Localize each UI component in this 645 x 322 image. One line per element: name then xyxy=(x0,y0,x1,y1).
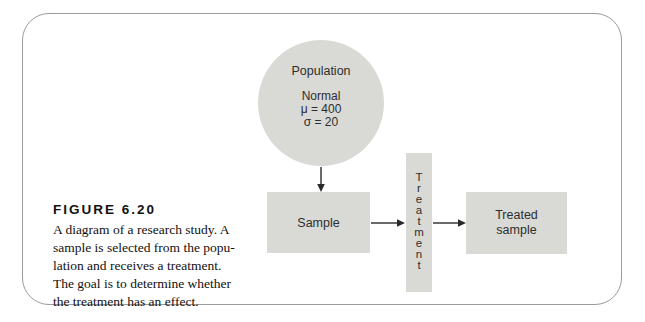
figure-caption: FIGURE 6.20 A diagram of a research stud… xyxy=(53,202,253,311)
figure-label: FIGURE 6.20 xyxy=(53,202,253,217)
caption-line: the treatment has an effect. xyxy=(53,293,253,311)
treatment-label: T r e a t m e n t xyxy=(414,171,424,271)
population-sigma: σ = 20 xyxy=(258,116,384,129)
treated-sample-box: Treated sample xyxy=(466,192,567,254)
population-circle: Population Normal μ = 400 σ = 20 xyxy=(258,40,384,166)
caption-line: A diagram of a research study. A xyxy=(53,221,253,239)
caption-line: lation and receives a treatment. xyxy=(53,257,253,275)
sample-box: Sample xyxy=(267,192,370,253)
sample-label: Sample xyxy=(297,216,339,230)
caption-line: The goal is to determine whether xyxy=(53,275,253,293)
treatment-bar: T r e a t m e n t xyxy=(406,153,432,292)
treated-sample-label: Treated sample xyxy=(495,208,538,238)
population-stats: Normal μ = 400 σ = 20 xyxy=(258,90,384,129)
population-title: Population xyxy=(258,64,384,78)
caption-line: sample is selected from the popu- xyxy=(53,239,253,257)
figure-6-20: FIGURE 6.20 A diagram of a research stud… xyxy=(0,0,645,322)
